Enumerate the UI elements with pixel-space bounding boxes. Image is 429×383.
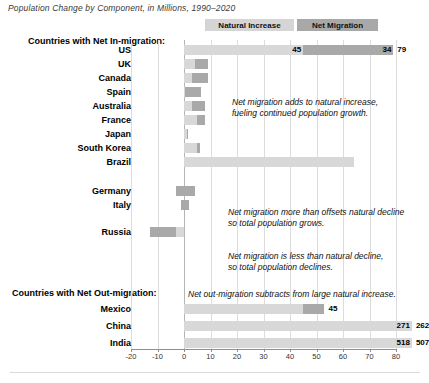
- annotation-2-line-2: so total population grows.: [228, 218, 324, 229]
- bar-segment-net-migration: [303, 304, 324, 314]
- bar-row: China271262: [131, 321, 396, 331]
- bar-value-natural-increase: 518: [397, 338, 410, 348]
- bar-row-label: Japan: [5, 129, 131, 139]
- bar-row: UK: [131, 59, 396, 69]
- bar-segment-net-migration: [187, 129, 188, 139]
- bar-segment-natural-increase: [184, 73, 192, 83]
- bar-segment-net-migration: [176, 186, 195, 196]
- bar-row: Japan: [131, 129, 396, 139]
- bar-segment-net-migration: [150, 227, 177, 237]
- chart-canvas: Population Change by Component, in Milli…: [0, 0, 429, 383]
- bar-row: Germany: [131, 186, 396, 196]
- bar-row: India518507: [131, 338, 396, 348]
- legend-item-natural-increase: Natural Increase: [205, 19, 294, 31]
- bar-row: Mexico5345: [131, 304, 396, 314]
- bar-row: Spain: [131, 87, 396, 97]
- bar-row-label: US: [5, 45, 131, 55]
- plot-area: US453479UKCanadaSpainAustraliaFranceJapa…: [131, 40, 396, 350]
- bar-row-label: UK: [5, 59, 131, 69]
- bar-segment-natural-increase: [184, 143, 197, 153]
- bar-row-label: Russia: [5, 227, 131, 237]
- bar-segment-natural-increase: 518: [184, 338, 412, 348]
- bar-row-label: Mexico: [5, 304, 131, 314]
- bar-row-label: Germany: [5, 186, 131, 196]
- bar-segment-net-migration: [181, 200, 189, 210]
- annotation-1-line-2: fueling continued population growth.: [232, 108, 368, 119]
- bar-row-label: India: [5, 338, 131, 348]
- bar-segment-natural-increase: [184, 101, 192, 111]
- bar-value-natural-increase: 45: [292, 45, 301, 55]
- x-axis-tick-label: 20: [233, 352, 241, 361]
- bar-row: Canada: [131, 73, 396, 83]
- gridline: [396, 40, 397, 350]
- bar-segment-natural-increase: [184, 115, 197, 125]
- legend-item-net-migration: Net Migration: [297, 19, 378, 31]
- annotation-1-line-1: Net migration adds to natural increase,: [232, 97, 378, 108]
- annotation-4-line-1: Net out-migration subtracts from large n…: [188, 289, 396, 300]
- bar-value-total: 507: [416, 338, 429, 348]
- bar-row: South Korea: [131, 143, 396, 153]
- bar-row-label: France: [5, 115, 131, 125]
- bar-value-total: 79: [397, 45, 406, 55]
- bar-segment-net-migration: 34: [303, 45, 393, 55]
- bar-segment-net-migration: [197, 115, 205, 125]
- bar-row-label: Spain: [5, 87, 131, 97]
- bar-row-label: Australia: [5, 101, 131, 111]
- bar-row: Brazil: [131, 157, 396, 167]
- bar-segment-natural-increase: 45: [184, 45, 303, 55]
- x-axis-tick-label: 30: [259, 352, 267, 361]
- bar-segment-net-migration: [195, 59, 208, 69]
- x-axis-tick-label: 50: [312, 352, 320, 361]
- bar-segment-natural-increase: 271: [184, 321, 412, 331]
- bar-row-label: Canada: [5, 73, 131, 83]
- x-axis-tick-label: -20: [126, 352, 137, 361]
- footer-divider: [10, 372, 420, 373]
- x-axis-tick-label: 10: [206, 352, 214, 361]
- bar-value-total: 45: [328, 304, 337, 314]
- bar-row-label: Italy: [5, 200, 131, 210]
- bar-segment-natural-increase: [184, 157, 354, 167]
- bar-segment-net-migration: [192, 73, 208, 83]
- bar-segment-net-migration: [192, 101, 205, 111]
- x-axis-tick-label: 70: [365, 352, 373, 361]
- annotation-2-line-1: Net migration more than offsets natural …: [228, 207, 404, 218]
- x-axis-tick-label: 80: [392, 352, 400, 361]
- chart-legend: Natural Increase Net Migration: [205, 19, 378, 31]
- bar-segment-natural-increase: [184, 59, 195, 69]
- bar-row-label: South Korea: [5, 143, 131, 153]
- annotation-3-line-1: Net migration is less than natural decli…: [228, 251, 383, 262]
- x-axis-tick-label: 60: [339, 352, 347, 361]
- bar-value-total: 262: [416, 321, 429, 331]
- bar-row-label: Brazil: [5, 157, 131, 167]
- bar-row: US453479: [131, 45, 396, 55]
- x-axis-tick-label: 40: [286, 352, 294, 361]
- bar-value-net-migration: 34: [382, 45, 391, 55]
- bar-segment-net-migration: [185, 87, 201, 97]
- x-axis-tick-label: 0: [182, 352, 186, 361]
- bar-segment-net-migration: [197, 143, 200, 153]
- bar-value-natural-increase: 271: [397, 321, 410, 331]
- annotation-3-line-2: so total population declines.: [228, 262, 333, 273]
- chart-title: Population Change by Component, in Milli…: [8, 3, 235, 13]
- bar-row-label: China: [5, 321, 131, 331]
- x-axis-tick-label: -10: [152, 352, 163, 361]
